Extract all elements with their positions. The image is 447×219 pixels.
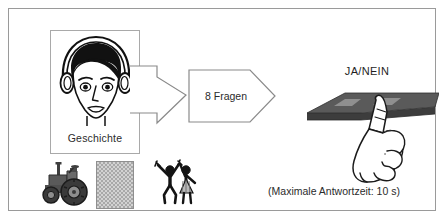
block-arrow-right-icon	[129, 65, 187, 125]
figure-frame: Geschichte 8 Fragen JA/NEIN	[8, 8, 436, 211]
texture-patch-icon	[96, 161, 134, 209]
listener-story-label: Geschichte	[51, 132, 139, 144]
questions-count-label: 8 Fragen	[188, 69, 264, 123]
response-options-label: JA/NEIN	[319, 65, 415, 77]
tablet-with-pointing-hand-icon	[305, 87, 439, 183]
dancing-figures-icon	[149, 157, 201, 209]
tractor-icon	[37, 161, 89, 207]
listener-story-box: Geschichte	[50, 30, 140, 154]
figure-root: Geschichte 8 Fragen JA/NEIN	[0, 0, 447, 219]
max-response-time-caption: (Maximale Antwortzeit: 10 s)	[245, 185, 423, 197]
questions-shape: 8 Fragen	[188, 69, 276, 123]
head-with-headphones-icon	[57, 34, 135, 126]
